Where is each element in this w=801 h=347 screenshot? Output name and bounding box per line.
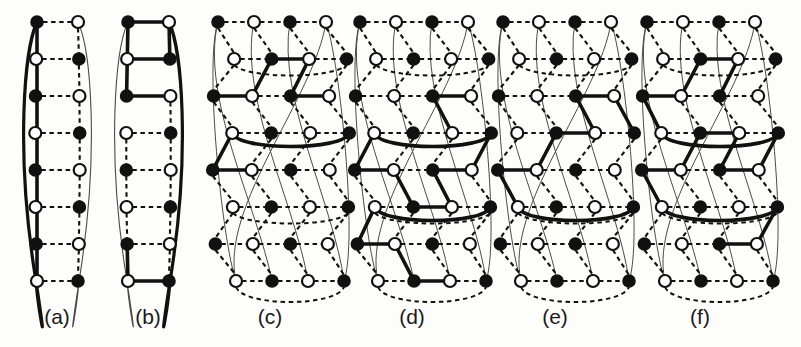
node-open	[732, 53, 744, 65]
nodes-b	[120, 16, 176, 287]
thick-arc-edge	[661, 133, 778, 147]
node-filled	[74, 127, 86, 139]
node-open	[444, 275, 456, 287]
node-filled	[695, 53, 707, 65]
dashed-v-edge	[683, 28, 701, 53]
dashed-v-edge	[537, 176, 557, 201]
node-filled	[164, 53, 176, 65]
dashed-v-edge	[615, 176, 634, 201]
dashed-v-edge	[290, 28, 309, 53]
node-open	[445, 53, 457, 65]
node-open	[466, 164, 478, 176]
dashed-v-edge	[576, 176, 595, 201]
node-open	[465, 90, 477, 102]
dashed-v-edge	[396, 28, 414, 53]
node-filled	[570, 164, 582, 176]
node-filled	[163, 275, 175, 287]
node-open	[513, 53, 525, 65]
node-open	[369, 201, 381, 213]
node-filled	[120, 164, 132, 176]
dashed-v-edge	[682, 250, 701, 275]
dashed-v-edge	[470, 250, 486, 275]
node-open	[388, 90, 400, 102]
node-open	[753, 164, 765, 176]
node-open	[120, 127, 132, 139]
panel-f	[636, 16, 784, 302]
dashed-v-edge	[757, 250, 773, 275]
dashed-v-edge	[499, 65, 519, 90]
dashed-v-edge	[575, 28, 594, 53]
node-open	[389, 238, 401, 250]
node-filled	[637, 90, 649, 102]
node-filled	[354, 16, 366, 28]
dashed-v-edge	[356, 65, 376, 90]
dashed-v-edge	[719, 28, 738, 53]
node-filled	[349, 164, 361, 176]
node-open	[30, 53, 42, 65]
dashed-v-edge	[433, 139, 452, 164]
node-open	[733, 127, 745, 139]
node-filled	[342, 201, 354, 213]
dashed-v-edge	[719, 250, 737, 275]
dashed-v-edge	[291, 176, 310, 201]
dashed-v-edge	[213, 176, 233, 201]
panel-e	[492, 16, 640, 302]
dashed-v-edge	[720, 176, 739, 201]
panel-c	[207, 16, 355, 302]
node-filled	[121, 90, 133, 102]
node-open	[320, 16, 332, 28]
dashed-v-edge	[290, 213, 309, 238]
dashed-v-edge	[681, 176, 701, 201]
node-filled	[695, 275, 707, 287]
node-filled	[427, 90, 439, 102]
dashed-v-edge	[328, 250, 344, 275]
node-filled	[266, 53, 278, 65]
node-open	[533, 16, 545, 28]
node-open	[164, 90, 176, 102]
node-open	[531, 164, 543, 176]
node-filled	[771, 201, 783, 213]
node-open	[247, 238, 259, 250]
graph-embeddings-svg	[0, 0, 801, 347]
node-filled	[485, 127, 497, 139]
dashed-v-edge	[433, 65, 451, 90]
node-open	[464, 238, 476, 250]
node-open	[165, 164, 177, 176]
node-filled	[285, 164, 297, 176]
node-open	[324, 164, 336, 176]
dashed-v-edge	[537, 102, 556, 127]
node-filled	[767, 275, 779, 287]
dashed-v-edge	[575, 213, 594, 238]
panel-a	[24, 16, 92, 327]
node-open	[531, 90, 543, 102]
node-filled	[426, 16, 438, 28]
node-open	[462, 16, 474, 28]
node-filled	[626, 53, 638, 65]
node-filled	[551, 275, 563, 287]
dashed-v-edge	[214, 65, 234, 90]
dashed-v-edge	[719, 213, 738, 238]
node-filled	[483, 53, 495, 65]
node-filled	[407, 201, 419, 213]
dashed-v-edge	[330, 176, 349, 201]
node-filled	[713, 238, 725, 250]
dashed-v-edge	[644, 250, 665, 275]
node-open	[676, 238, 688, 250]
node-open	[731, 275, 743, 287]
dashed-v-edge	[432, 213, 451, 238]
dashed-v-edge	[215, 213, 233, 238]
node-filled	[209, 238, 221, 250]
nodes-c	[207, 16, 355, 287]
dashed-v-edge	[357, 250, 378, 275]
node-open	[605, 16, 617, 28]
node-open	[73, 90, 85, 102]
node-filled	[284, 238, 296, 250]
dashed-v-edge	[170, 213, 171, 238]
node-open	[72, 16, 84, 28]
node-open	[532, 238, 544, 250]
node-filled	[569, 16, 581, 28]
dashed-v-edge	[432, 250, 450, 275]
node-filled	[165, 127, 177, 139]
node-filled	[351, 238, 363, 250]
node-open	[226, 127, 238, 139]
